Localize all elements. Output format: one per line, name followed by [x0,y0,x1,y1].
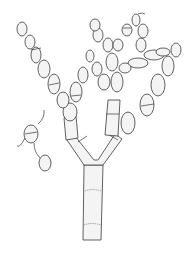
stalk [67,134,122,240]
detached-conidia [17,110,51,171]
middle-branch [86,13,145,136]
left-branch [17,22,88,140]
right-branch [119,24,181,134]
hyphae-illustration [0,0,193,253]
